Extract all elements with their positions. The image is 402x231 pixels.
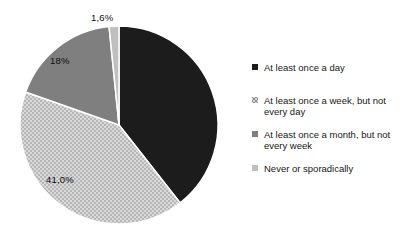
legend-label: At least once a week, but not every day — [264, 95, 402, 118]
legend-item-once-a-month: At least once a month, but not every wee… — [252, 129, 402, 152]
pie-svg — [0, 0, 246, 231]
slice-label-once-a-month: 18% — [50, 55, 70, 66]
legend: At least once a day At least once a week… — [252, 62, 402, 174]
legend-marker-swatch-icon — [252, 131, 258, 137]
legend-item-once-a-week: At least once a week, but not every day — [252, 95, 402, 118]
legend-item-never-or-sporadically: Never or sporadically — [252, 163, 402, 175]
slice-label-never-or-sporadically: 1,6% — [91, 12, 113, 23]
pie-plot-area: 1,6% 18% 41,0% — [0, 0, 246, 231]
legend-item-once-a-day: At least once a day — [252, 62, 402, 74]
legend-label: At least once a day — [264, 62, 402, 74]
legend-marker-swatch-icon — [252, 64, 258, 70]
pie-chart-figure: 1,6% 18% 41,0% At least once a day At le… — [0, 0, 402, 231]
legend-label: At least once a month, but not every wee… — [264, 129, 402, 152]
slice-label-once-a-week: 41,0% — [46, 174, 74, 185]
legend-label: Never or sporadically — [264, 163, 402, 175]
legend-marker-swatch-icon — [252, 97, 258, 103]
legend-marker-swatch-icon — [252, 165, 258, 171]
